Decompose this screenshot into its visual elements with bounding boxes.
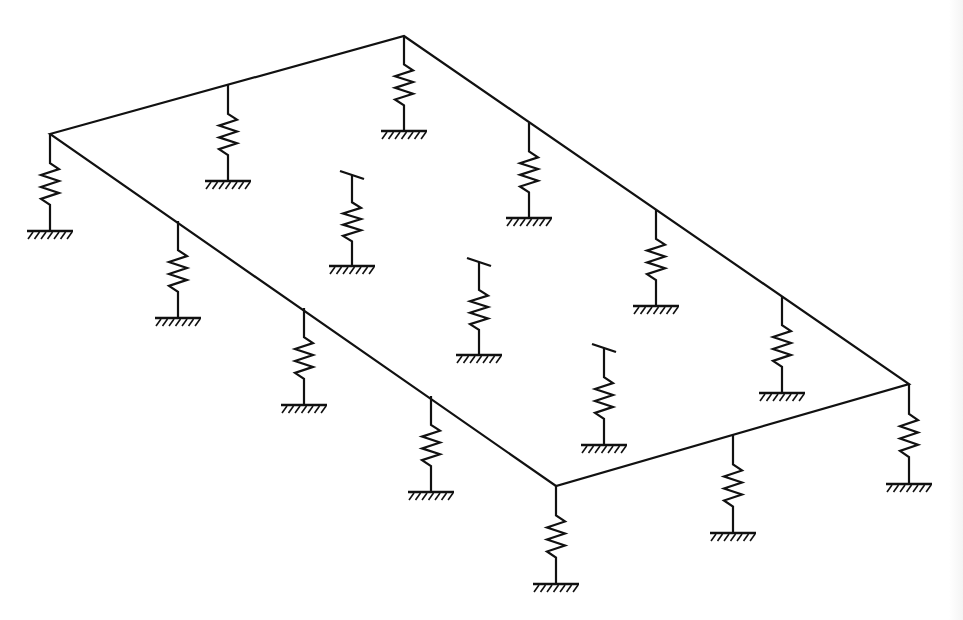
- ground-hatch-icon: [289, 406, 294, 413]
- plate-outline: [50, 36, 909, 486]
- ground-hatch-icon: [926, 485, 931, 492]
- ground-hatch-icon: [457, 356, 462, 363]
- ground-hatch-icon: [464, 356, 469, 363]
- spring-coil-icon: [520, 123, 538, 218]
- ground-hatch-icon: [920, 485, 925, 492]
- edge-spring: [155, 221, 201, 326]
- ground-hatch-icon: [402, 132, 407, 139]
- edge-spring: [281, 308, 327, 413]
- spring-coil-icon: [219, 85, 237, 181]
- ground-hatch-icon: [507, 219, 512, 226]
- spring-coil-icon: [547, 486, 565, 584]
- ground-hatch-icon: [621, 446, 626, 453]
- ground-hatch-icon: [660, 307, 665, 314]
- ground-hatch-icon: [448, 493, 453, 500]
- ground-hatch-icon: [35, 232, 40, 239]
- ground-hatch-icon: [750, 534, 755, 541]
- spring-coil-icon: [295, 308, 313, 405]
- edge-spring: [506, 123, 552, 226]
- ground-hatch-icon: [541, 585, 546, 592]
- ground-hatch-icon: [163, 319, 168, 326]
- ground-hatch-icon: [514, 219, 519, 226]
- ground-hatch-icon: [176, 319, 181, 326]
- ground-hatch-icon: [206, 182, 211, 189]
- ground-hatch-icon: [182, 319, 187, 326]
- ground-hatch-icon: [540, 219, 545, 226]
- ground-hatch-icon: [54, 232, 59, 239]
- ground-hatch-icon: [773, 394, 778, 401]
- ground-hatch-icon: [554, 585, 559, 592]
- image-edge-shade: [949, 0, 963, 620]
- edge-spring: [408, 396, 454, 500]
- ground-hatch-icon: [408, 132, 413, 139]
- ground-hatch-icon: [226, 182, 231, 189]
- ground-hatch-icon: [189, 319, 194, 326]
- ground-hatch-icon: [156, 319, 161, 326]
- plate-on-springs-diagram: [0, 0, 963, 620]
- ground-hatch-icon: [496, 356, 501, 363]
- ground-hatch-icon: [900, 485, 905, 492]
- ground-hatch-icon: [308, 406, 313, 413]
- spring-coil-icon: [724, 435, 742, 533]
- spring-coil-icon: [41, 134, 59, 231]
- ground-hatch-icon: [245, 182, 250, 189]
- ground-hatch-icon: [409, 493, 414, 500]
- spring-coil-icon: [595, 348, 613, 445]
- ground-hatch-icon: [41, 232, 46, 239]
- interior-spring: [329, 171, 375, 274]
- ground-hatch-icon: [302, 406, 307, 413]
- edge-spring: [27, 134, 73, 239]
- ground-hatch-icon: [382, 132, 387, 139]
- ground-hatch-icon: [894, 485, 899, 492]
- ground-hatch-icon: [560, 585, 565, 592]
- ground-hatch-icon: [547, 585, 552, 592]
- ground-hatch-icon: [435, 493, 440, 500]
- ground-hatch-icon: [793, 394, 798, 401]
- ground-hatch-icon: [780, 394, 785, 401]
- edge-spring: [381, 36, 427, 139]
- spring-coil-icon: [773, 296, 791, 393]
- spring-coil-icon: [169, 221, 187, 318]
- ground-hatch-icon: [470, 356, 475, 363]
- ground-hatch-icon: [483, 356, 488, 363]
- ground-hatch-icon: [527, 219, 532, 226]
- ground-hatch-icon: [718, 534, 723, 541]
- ground-hatch-icon: [315, 406, 320, 413]
- ground-hatch-icon: [595, 446, 600, 453]
- ground-hatch-icon: [608, 446, 613, 453]
- spring-supports: [27, 36, 932, 592]
- ground-hatch-icon: [641, 307, 646, 314]
- ground-hatch-icon: [429, 493, 434, 500]
- ground-hatch-icon: [282, 406, 287, 413]
- spring-coil-icon: [343, 175, 361, 266]
- ground-hatch-icon: [490, 356, 495, 363]
- ground-hatch-icon: [760, 394, 765, 401]
- interior-spring: [581, 344, 627, 453]
- spring-coil-icon: [422, 396, 440, 492]
- ground-hatch-icon: [169, 319, 174, 326]
- ground-hatch-icon: [673, 307, 678, 314]
- ground-hatch-icon: [913, 485, 918, 492]
- spring-coil-icon: [470, 262, 488, 355]
- ground-hatch-icon: [442, 493, 447, 500]
- ground-hatch-icon: [67, 232, 72, 239]
- ground-hatch-icon: [582, 446, 587, 453]
- ground-hatch-icon: [615, 446, 620, 453]
- spring-coil-icon: [900, 384, 918, 484]
- ground-hatch-icon: [634, 307, 639, 314]
- ground-hatch-icon: [533, 219, 538, 226]
- edge-spring: [710, 435, 756, 541]
- ground-hatch-icon: [350, 267, 355, 274]
- ground-hatch-icon: [786, 394, 791, 401]
- ground-hatch-icon: [602, 446, 607, 453]
- edge-spring: [759, 296, 805, 401]
- ground-hatch-icon: [239, 182, 244, 189]
- ground-hatch-icon: [363, 267, 368, 274]
- edge-spring: [633, 210, 679, 314]
- ground-hatch-icon: [421, 132, 426, 139]
- ground-hatch-icon: [667, 307, 672, 314]
- ground-hatch-icon: [416, 493, 421, 500]
- ground-hatch-icon: [647, 307, 652, 314]
- ground-hatch-icon: [907, 485, 912, 492]
- ground-hatch-icon: [767, 394, 772, 401]
